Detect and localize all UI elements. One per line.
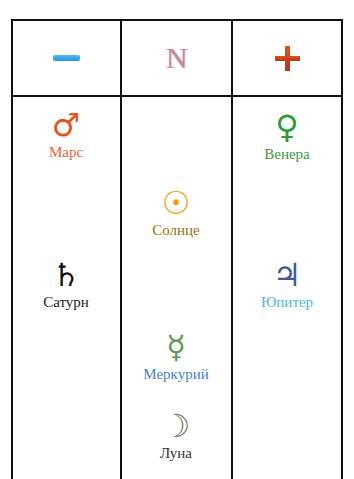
- mars-icon: ♂: [52, 109, 81, 141]
- planet-venus: ♀ Венера: [232, 111, 342, 163]
- moon-icon: ☽: [162, 410, 191, 442]
- minus-icon: [53, 55, 80, 61]
- planet-mercury: ☿ Меркурий: [121, 331, 231, 383]
- planet-polarity-table: N ♂ Марс ♀ Венера ☉ Солнце ♄ Сатурн ♃ Юп…: [11, 19, 343, 479]
- table-right-border: [341, 19, 343, 479]
- saturn-label: Сатурн: [43, 293, 89, 311]
- mercury-label: Меркурий: [143, 365, 208, 383]
- header-negative: [13, 21, 120, 95]
- moon-label: Луна: [160, 444, 192, 462]
- neutral-n-icon: N: [166, 41, 188, 75]
- header-neutral: N: [122, 21, 231, 95]
- sun-icon: ☉: [162, 187, 191, 219]
- jupiter-icon: ♃: [273, 259, 302, 291]
- header-positive: [233, 21, 341, 95]
- header-divider: [11, 95, 343, 97]
- planet-moon: ☽ Луна: [121, 410, 231, 462]
- jupiter-label: Юпитер: [261, 293, 313, 311]
- plus-icon: [275, 46, 300, 71]
- mars-label: Марс: [49, 143, 83, 161]
- saturn-icon: ♄: [52, 259, 81, 291]
- planet-jupiter: ♃ Юпитер: [232, 259, 342, 311]
- venus-label: Венера: [264, 145, 310, 163]
- planet-saturn: ♄ Сатурн: [11, 259, 121, 311]
- planet-mars: ♂ Марс: [11, 109, 121, 161]
- venus-icon: ♀: [275, 111, 298, 143]
- mercury-icon: ☿: [166, 331, 186, 363]
- planet-sun: ☉ Солнце: [121, 187, 231, 239]
- sun-label: Солнце: [152, 221, 200, 239]
